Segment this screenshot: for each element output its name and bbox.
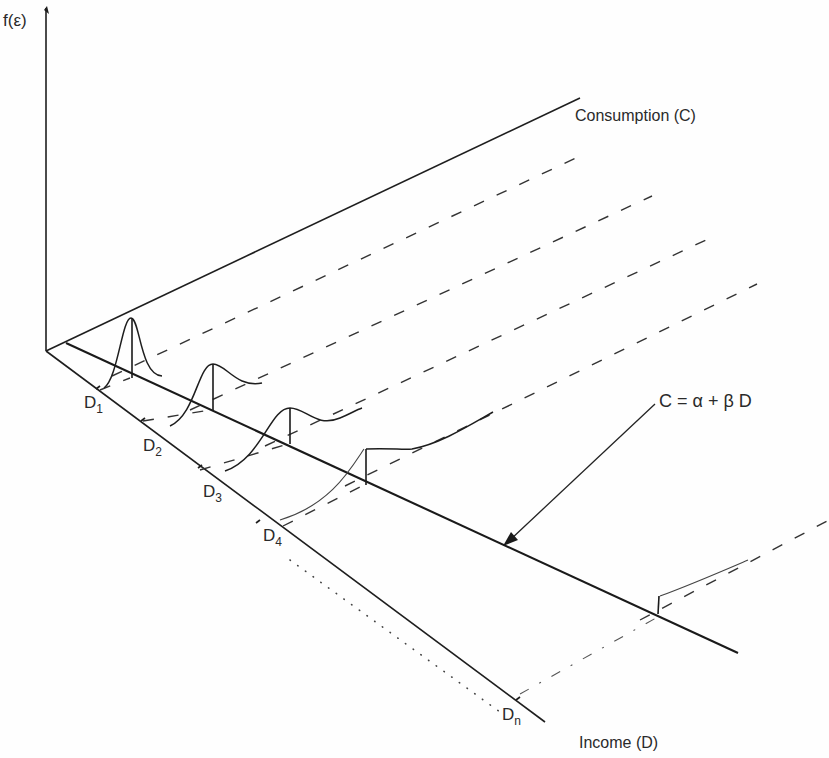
d3-dashed-upper — [265, 240, 706, 446]
consumption-axis — [46, 98, 580, 351]
distribution-d2 — [170, 364, 262, 426]
f-epsilon-label: f(ε) — [3, 11, 27, 30]
consumption-axis-label: Consumption (C) — [575, 107, 696, 124]
density-curve-dn — [660, 560, 748, 596]
income-axis — [46, 351, 545, 722]
density-curve-d1 — [104, 318, 162, 388]
regression-equation-label: C = α + β D — [659, 391, 752, 411]
distribution-d1 — [104, 318, 162, 388]
ellipsis-dots — [290, 560, 500, 712]
equation-pointer-line — [510, 404, 655, 540]
income-axis-label: Income (D) — [579, 734, 658, 751]
d1-label: D1 — [84, 393, 103, 416]
tick-dn — [516, 697, 520, 700]
distribution-d4 — [280, 412, 493, 520]
density-curve-d4-left — [280, 449, 364, 520]
d3-dashed-lower — [200, 444, 288, 470]
density-curve-d4-right — [366, 412, 493, 449]
diagram-canvas: f(ε) Consumption (C) Income (D) C = α + … — [0, 0, 829, 758]
d3-label: D3 — [203, 482, 222, 505]
d1-dashed-upper — [112, 157, 578, 376]
dn-dashed-upper — [640, 520, 829, 620]
distribution-d3 — [225, 408, 362, 471]
d4-dashed-lower — [283, 486, 362, 526]
dn-label: Dn — [502, 705, 521, 728]
density-stem-dn — [658, 596, 659, 614]
density-curve-d2 — [170, 364, 262, 426]
tick-d4 — [256, 520, 260, 523]
d2-dashed-lower — [143, 410, 210, 421]
diagram-svg: f(ε) Consumption (C) Income (D) C = α + … — [0, 0, 829, 758]
projection-lines — [100, 157, 829, 694]
distribution-dn — [658, 560, 748, 614]
d4-label: D4 — [263, 526, 282, 549]
density-curve-d3 — [225, 408, 362, 471]
d2-label: D2 — [143, 436, 162, 459]
d4-dashed-upper — [345, 284, 757, 486]
tick-d1 — [96, 386, 100, 389]
dn-dashed-lower — [520, 618, 656, 694]
d2-dashed-upper — [190, 196, 652, 410]
regression-line — [66, 343, 738, 653]
